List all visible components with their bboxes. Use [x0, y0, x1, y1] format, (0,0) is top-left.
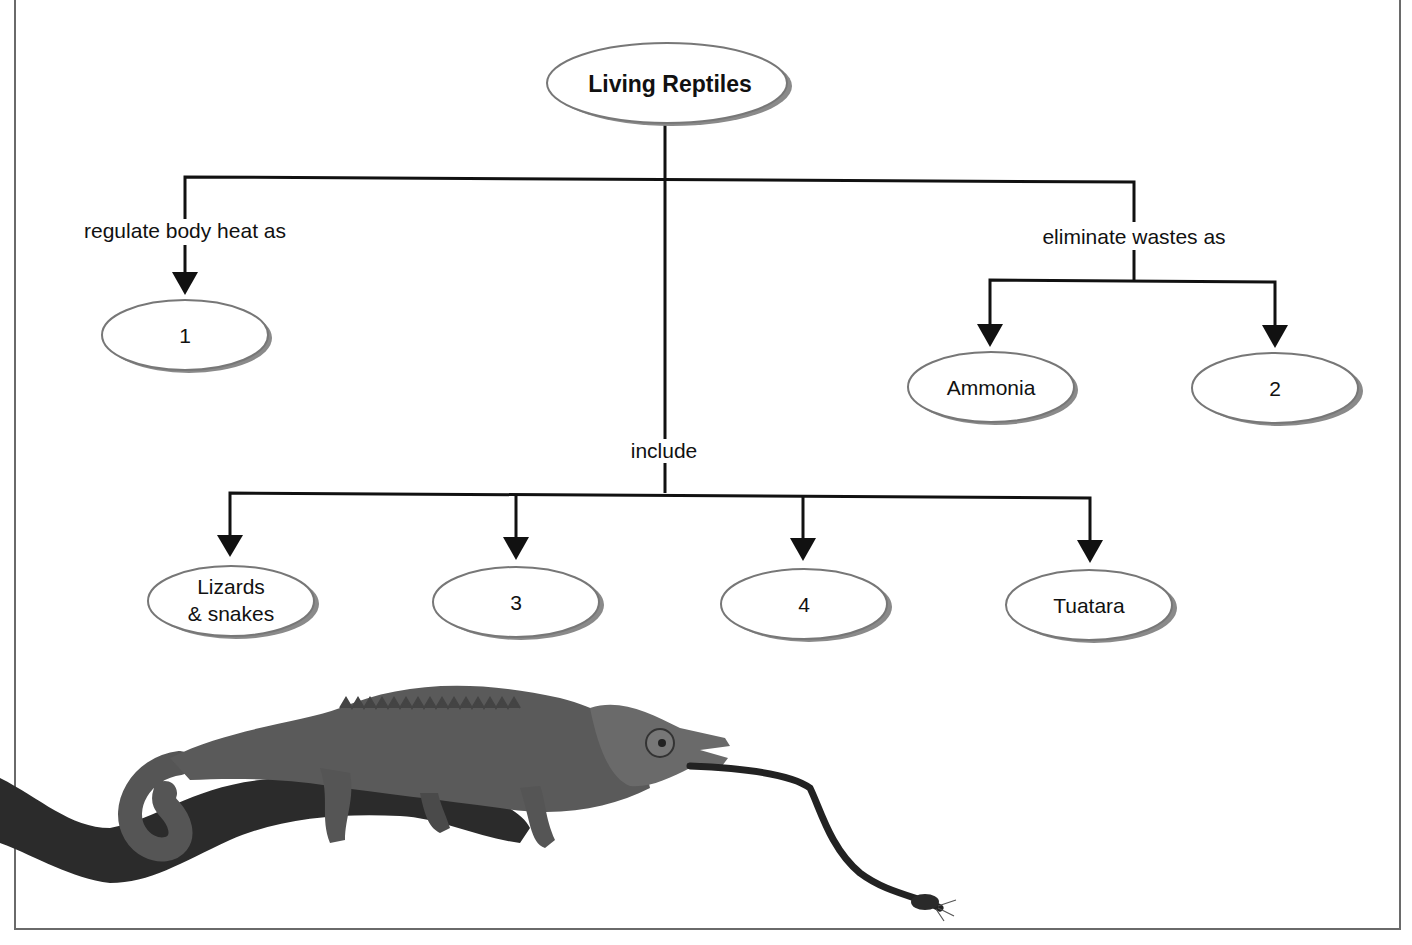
edge-label-regulate: regulate body heat as: [82, 219, 288, 243]
node-ammonia: Ammonia: [947, 374, 1036, 401]
edge-label-include: include: [629, 439, 700, 463]
node-2: 2: [1269, 375, 1281, 402]
node-lizards-snakes: Lizards & snakes: [188, 573, 274, 627]
node-lizards-line2: & snakes: [188, 600, 274, 627]
root-node-living-reptiles: Living Reptiles: [588, 71, 752, 98]
edge-label-eliminate: eliminate wastes as: [1040, 225, 1227, 249]
arrowhead-icons: [172, 272, 1288, 563]
node-4: 4: [798, 591, 810, 618]
chameleon-image: [0, 668, 990, 933]
node-1: 1: [179, 322, 191, 349]
node-tuatara: Tuatara: [1053, 592, 1125, 619]
node-3: 3: [510, 589, 522, 616]
node-lizards-line1: Lizards: [188, 573, 274, 600]
